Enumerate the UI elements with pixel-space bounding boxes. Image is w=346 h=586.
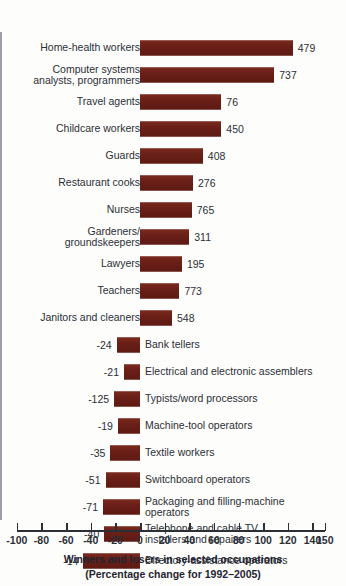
category-label: Childcare workers	[56, 123, 140, 135]
value-label: -35	[90, 447, 105, 459]
category-label: Textile workers	[145, 447, 214, 459]
bar	[106, 472, 140, 487]
category-label: Home-health workers	[40, 42, 140, 54]
value-label: -71	[83, 501, 98, 513]
value-label: 408	[208, 150, 226, 162]
bar	[140, 229, 189, 244]
category-label: Machine-tool operators	[145, 420, 252, 432]
bar-row: Machine-tool operators-19	[0, 412, 346, 439]
value-label: 773	[184, 285, 202, 297]
bar-row: Janitors and cleaners548	[0, 304, 346, 331]
category-label: Lawyers	[101, 258, 140, 270]
x-axis-line	[17, 530, 325, 532]
value-label: 450	[226, 123, 244, 135]
value-label: 548	[177, 312, 195, 324]
bar-row: Electrical and electronic assemblers-21	[0, 358, 346, 385]
axis-tick-label: -40	[83, 534, 98, 546]
category-label: Computer systems analysts, programmers	[33, 63, 140, 86]
bar-row: Lawyers195	[0, 250, 346, 277]
axis-tick	[263, 523, 265, 531]
chart-caption: Winners and losers in selected occupatio…	[0, 552, 346, 582]
bar-row: Restaurant cooks276	[0, 169, 346, 196]
value-label: 737	[279, 69, 297, 81]
category-label: Travel agents	[77, 96, 140, 108]
axis-tick-label: -20	[108, 534, 123, 546]
bar-row: Typists/word processors-125	[0, 385, 346, 412]
value-label: 479	[298, 42, 316, 54]
bar-row: Teachers773	[0, 277, 346, 304]
bar	[140, 175, 193, 190]
value-label: 276	[198, 177, 216, 189]
bar-row: Packaging and filling-machine operators-…	[0, 493, 346, 520]
value-label: -24	[96, 339, 111, 351]
bar-row: Textile workers-35	[0, 439, 346, 466]
axis-tick	[165, 523, 167, 531]
bar	[140, 202, 192, 217]
axis-tick-label: 20	[159, 534, 171, 546]
axis-tick-label: 100	[254, 534, 272, 546]
caption-title: Winners and losers in selected occupatio…	[0, 552, 346, 567]
category-label: Restaurant cooks	[58, 177, 140, 189]
value-label: -21	[104, 366, 119, 378]
axis-tick	[140, 523, 142, 531]
axis-tick-label: 150	[316, 534, 334, 546]
category-label: Guards	[106, 150, 140, 162]
category-label: Janitors and cleaners	[40, 312, 140, 324]
axis-tick	[288, 523, 290, 531]
bar	[103, 499, 140, 514]
axis-tick	[41, 523, 43, 531]
bar	[118, 418, 140, 433]
bar-row: Childcare workers450	[0, 115, 346, 142]
bar	[114, 391, 140, 406]
category-label: Bank tellers	[145, 339, 200, 351]
value-label: 195	[187, 258, 205, 270]
bar-row: Nurses765	[0, 196, 346, 223]
plot-area: Home-health workers479Computer systems a…	[0, 0, 346, 520]
axis-tick-label: 120	[279, 534, 297, 546]
value-label: 311	[194, 231, 211, 243]
category-label: Electrical and electronic assemblers	[145, 366, 313, 378]
bar	[140, 256, 182, 271]
bar-row: Bank tellers-24	[0, 331, 346, 358]
bar	[140, 40, 293, 55]
axis-tick	[312, 523, 314, 531]
caption-subtitle: (Percentage change for 1992–2005)	[0, 567, 346, 582]
axis-tick-label: 0	[137, 534, 143, 546]
bar	[140, 283, 179, 298]
bar-row: Gardeners/ groundskeepers311	[0, 223, 346, 250]
axis-tick	[91, 523, 93, 531]
axis-tick-label: -60	[58, 534, 73, 546]
bar-row: Switchboard operators-51	[0, 466, 346, 493]
category-label: Gardeners/ groundskeepers	[65, 225, 140, 248]
axis-tick	[325, 523, 327, 531]
axis-tick-label: 60	[208, 534, 220, 546]
category-label: Teachers	[97, 285, 140, 297]
bar	[124, 364, 140, 379]
bar	[140, 121, 221, 136]
category-label: Packaging and filling-machine operators	[145, 495, 285, 518]
bar-row: Computer systems analysts, programmers73…	[0, 61, 346, 88]
axis-tick	[214, 523, 216, 531]
axis-tick-label: 80	[233, 534, 245, 546]
axis-tick-label: 40	[183, 534, 195, 546]
category-label: Typists/word processors	[145, 393, 258, 405]
value-label: -19	[98, 420, 113, 432]
bar	[140, 310, 172, 325]
bar-row: Home-health workers479	[0, 34, 346, 61]
bar	[117, 337, 140, 352]
axis-tick-label: -100	[6, 534, 27, 546]
bar	[140, 94, 221, 109]
bar-row: Guards408	[0, 142, 346, 169]
bar	[140, 148, 203, 163]
bar	[110, 445, 140, 460]
bar-chart-figure: Home-health workers479Computer systems a…	[0, 0, 346, 586]
axis-tick-label: -80	[34, 534, 49, 546]
value-label: 765	[197, 204, 215, 216]
axis-tick	[189, 523, 191, 531]
bar-row: Travel agents76	[0, 88, 346, 115]
value-label: 76	[226, 96, 238, 108]
category-label: Nurses	[107, 204, 140, 216]
axis-tick	[115, 523, 117, 531]
value-label: -51	[85, 474, 100, 486]
axis-tick	[17, 523, 19, 531]
